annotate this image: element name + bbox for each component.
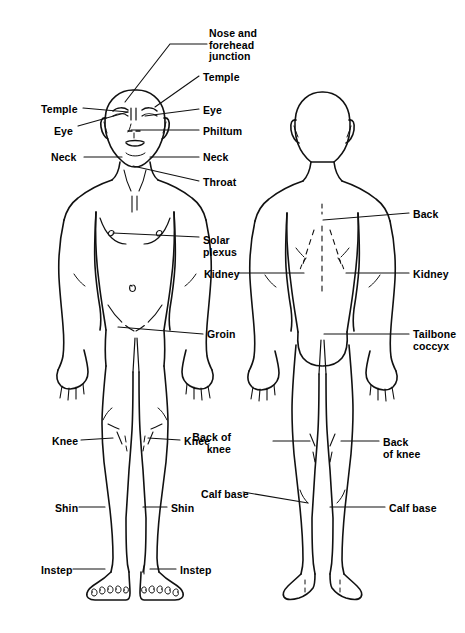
back-left-leg-outer bbox=[292, 345, 303, 574]
front-left-toes bbox=[92, 586, 129, 596]
front-navel bbox=[130, 285, 136, 292]
label-back-of-knee-left: Back of knee bbox=[0, 432, 231, 455]
back-right-scapula bbox=[330, 230, 341, 264]
leader-throat bbox=[133, 166, 199, 181]
label-tailbone-coccyx: Tailbone coccyx bbox=[413, 329, 456, 352]
front-head-outline bbox=[105, 90, 165, 167]
label-calf-base-left: Calf base bbox=[201, 489, 249, 501]
front-groin-crease-right bbox=[136, 305, 162, 331]
label-throat: Throat bbox=[203, 177, 236, 189]
front-right-hand bbox=[182, 350, 213, 389]
back-right-foot bbox=[330, 574, 362, 599]
front-chin bbox=[126, 153, 145, 156]
back-left-scapula-tip bbox=[300, 258, 306, 270]
label-shin-left: Shin bbox=[55, 503, 78, 515]
back-right-calf-line bbox=[337, 490, 345, 503]
label-instep-right: Instep bbox=[180, 565, 212, 577]
front-left-arm-outer bbox=[58, 220, 64, 370]
front-right-leg-inner bbox=[139, 372, 146, 572]
back-right-knee-line2 bbox=[330, 452, 332, 462]
back-left-knee-line2 bbox=[313, 452, 315, 462]
front-left-knee-cap bbox=[108, 424, 119, 429]
label-instep-left: Instep bbox=[41, 565, 73, 577]
back-figure bbox=[248, 92, 397, 599]
front-mouth-upper bbox=[126, 141, 144, 143]
front-neck-sterno-right bbox=[139, 170, 146, 191]
label-back-of-knee-right: Back of knee bbox=[383, 437, 420, 460]
front-right-eyebrow bbox=[142, 108, 157, 111]
back-left-shoulder bbox=[255, 181, 303, 221]
front-right-elbow-crease bbox=[185, 274, 196, 286]
anatomy-diagram: Nose and forehead junctionTempleTempleEy… bbox=[0, 0, 465, 633]
label-shin-right: Shin bbox=[171, 503, 194, 515]
back-head-outline bbox=[295, 92, 350, 162]
front-neck-sterno-left bbox=[124, 170, 131, 191]
back-right-hand bbox=[366, 351, 397, 390]
back-right-arm-outer bbox=[390, 221, 396, 371]
label-philtum: Philtum bbox=[203, 126, 242, 138]
front-left-leg-inner bbox=[126, 372, 133, 572]
back-left-scapula bbox=[303, 230, 314, 264]
front-right-shoulder bbox=[158, 180, 206, 220]
back-right-scapula-tip bbox=[338, 258, 344, 270]
front-left-hip bbox=[105, 330, 106, 366]
leader-temple-right bbox=[155, 76, 199, 107]
label-solar-plexus: Solar plexus bbox=[203, 235, 237, 258]
back-gluteal-cleft-right bbox=[324, 340, 326, 374]
leader-back bbox=[323, 213, 409, 220]
back-right-lat-crease bbox=[341, 248, 349, 257]
back-left-hand bbox=[248, 351, 279, 390]
back-right-leg-outer bbox=[342, 345, 353, 574]
leader-eye-right bbox=[145, 109, 199, 116]
back-neck-right bbox=[334, 162, 342, 181]
label-temple-left: Temple bbox=[41, 104, 78, 116]
label-neck-right: Neck bbox=[203, 152, 229, 164]
back-left-lat-crease bbox=[296, 248, 304, 257]
leader-eye-left bbox=[78, 112, 128, 126]
front-left-thigh-muscle bbox=[103, 408, 112, 420]
front-mouth-lower bbox=[126, 143, 144, 146]
anatomy-figures bbox=[0, 0, 465, 633]
label-eye-right: Eye bbox=[203, 105, 222, 117]
back-left-arm-outer bbox=[249, 221, 255, 371]
leader-nose-forehead-junction bbox=[125, 44, 207, 102]
back-left-calf-line bbox=[300, 490, 308, 503]
front-right-toes bbox=[142, 586, 179, 596]
label-temple-right: Temple bbox=[203, 72, 240, 84]
front-crotch-left bbox=[133, 338, 135, 372]
front-neck-left bbox=[112, 162, 120, 180]
back-left-knee-line bbox=[310, 434, 315, 446]
front-right-knee-cap bbox=[151, 424, 162, 429]
back-right-leg-inner bbox=[326, 374, 333, 574]
label-neck-left: Neck bbox=[51, 152, 77, 164]
back-left-leg-inner bbox=[312, 374, 319, 574]
back-neck-left bbox=[303, 162, 311, 181]
label-calf-base-right: Calf base bbox=[389, 503, 437, 515]
front-left-leg-outer bbox=[102, 366, 113, 572]
label-nose-forehead-junction: Nose and forehead junction bbox=[209, 28, 257, 63]
back-left-foot bbox=[283, 574, 315, 599]
back-gluteal-cleft-left bbox=[319, 340, 321, 374]
front-crotch-right bbox=[137, 338, 139, 372]
front-right-thigh-muscle bbox=[158, 408, 167, 420]
label-kidney-left: Kidney bbox=[204, 269, 240, 281]
front-left-elbow-crease bbox=[74, 274, 85, 286]
front-left-hand bbox=[57, 350, 88, 389]
label-kidney-right: Kidney bbox=[413, 269, 449, 281]
back-left-buttock bbox=[298, 332, 322, 366]
front-left-shoulder bbox=[64, 180, 112, 220]
label-groin: Groin bbox=[207, 329, 236, 341]
front-right-leg-outer bbox=[157, 366, 168, 572]
back-left-elbow bbox=[265, 275, 276, 287]
leader-groin bbox=[118, 327, 203, 334]
back-right-knee-line bbox=[330, 434, 335, 446]
front-right-pectoral bbox=[144, 218, 170, 244]
label-eye-left: Eye bbox=[54, 126, 73, 138]
front-right-hip bbox=[164, 330, 165, 366]
back-right-buttock bbox=[323, 332, 347, 366]
back-right-elbow bbox=[369, 275, 380, 287]
label-back: Back bbox=[413, 209, 439, 221]
